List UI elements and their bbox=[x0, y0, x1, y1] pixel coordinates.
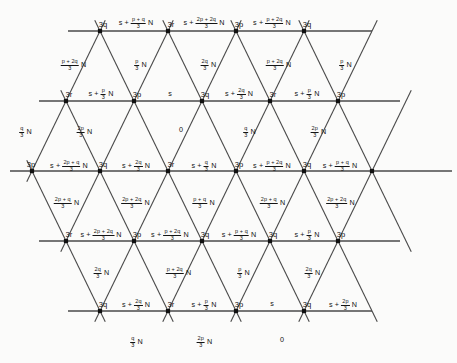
lattice-node-label: 3q bbox=[99, 161, 108, 169]
lattice-vertex bbox=[370, 169, 374, 173]
lattice-cell-expression: q3N bbox=[18, 124, 32, 138]
lattice-vertex bbox=[268, 239, 272, 243]
lattice-vertex bbox=[132, 239, 136, 243]
lattice-vertex bbox=[64, 239, 68, 243]
lattice-vertex bbox=[30, 169, 34, 173]
lattice-node-label: 3p bbox=[133, 231, 142, 239]
lattice-node-label: 3r bbox=[168, 161, 175, 169]
lattice-cell-expression: p3N bbox=[236, 265, 250, 279]
lattice-cell-expression: s bbox=[270, 300, 274, 307]
lattice-cell-expression: s +p + q3N bbox=[119, 17, 154, 29]
lattice-node-label: 3r bbox=[66, 91, 73, 99]
lattice-cell-expression: s +2p + q3N bbox=[50, 160, 88, 172]
lattice-vertex bbox=[234, 309, 238, 313]
lattice-node-label: 3p bbox=[235, 161, 244, 169]
lattice-node-label: 3q bbox=[269, 231, 278, 239]
lattice-cell-expression: s +2q3N bbox=[122, 160, 150, 172]
lattice-cell-expression: s +p + 2q3N bbox=[151, 229, 189, 241]
lattice-vertex bbox=[200, 239, 204, 243]
lattice-cell-expression: 0 bbox=[280, 336, 284, 343]
lattice-cell-expression: p + q3N bbox=[191, 195, 214, 209]
lattice-cell-expression: 2q3N bbox=[93, 265, 110, 279]
lattice-node-label: 3r bbox=[270, 91, 277, 99]
lattice-cell-expression: s +2p3N bbox=[329, 299, 357, 311]
lattice-cell-expression: s +p + q3N bbox=[323, 160, 358, 172]
lattice-cell-expression: s +2p + 2q3N bbox=[81, 229, 122, 241]
lattice-cell-expression: s +q3N bbox=[192, 160, 217, 172]
lattice-cell-expression: s +p + 2q3N bbox=[253, 17, 291, 29]
lattice-node-label: 3p bbox=[337, 91, 346, 99]
lattice-cell-expression: p3N bbox=[338, 57, 352, 71]
lattice-vertex bbox=[98, 309, 102, 313]
lattice-vertex bbox=[200, 99, 204, 103]
lattice-cell-expression: p + 2q3N bbox=[165, 265, 192, 279]
lattice-lines-svg bbox=[0, 0, 457, 363]
lattice-node-label: 3r bbox=[66, 231, 73, 239]
lattice-vertex bbox=[234, 169, 238, 173]
lattice-node-label: 3q bbox=[99, 21, 108, 29]
lattice-vertex bbox=[166, 309, 170, 313]
lattice-cell-expression: 2p3N bbox=[76, 124, 93, 138]
lattice-cell-expression: s +2p + 2q3N bbox=[184, 17, 225, 29]
lattice-cell-expression: s bbox=[168, 90, 172, 97]
lattice-cell-expression: p + 2q3N bbox=[60, 57, 87, 71]
lattice-cell-expression: s +2q3N bbox=[122, 299, 150, 311]
lattice-cell-expression: q3N bbox=[129, 334, 143, 348]
lattice-node-label: 3p bbox=[133, 91, 142, 99]
lattice-vertex bbox=[132, 99, 136, 103]
lattice-vertex bbox=[302, 309, 306, 313]
lattice-cell-expression: 2p + 2q3N bbox=[325, 195, 355, 209]
lattice-vertex bbox=[234, 29, 238, 33]
lattice-cell-expression: 0 bbox=[179, 126, 183, 133]
lattice-node-label: 3r bbox=[168, 301, 175, 309]
lattice-cell-expression: p + 2q3N bbox=[265, 57, 292, 71]
lattice-node-label: 3p bbox=[337, 231, 346, 239]
lattice-cell-expression: 2p + 2q3N bbox=[120, 195, 150, 209]
lattice-node-label: 3q bbox=[303, 161, 312, 169]
lattice-cell-expression: 2q3N bbox=[200, 57, 217, 71]
lattice-cell-expression: s +p + 2q3N bbox=[253, 160, 291, 172]
lattice-node-label: 3q bbox=[201, 231, 210, 239]
lattice-cell-expression: s +2q3N bbox=[225, 88, 253, 100]
lattice-vertex bbox=[336, 239, 340, 243]
lattice-cell-expression: 2p3N bbox=[196, 334, 213, 348]
lattice-vertex bbox=[98, 169, 102, 173]
lattice-vertex bbox=[166, 169, 170, 173]
lattice-cell-expression: s +p + q3N bbox=[222, 229, 257, 241]
lattice-cell-expression: q3N bbox=[242, 124, 256, 138]
lattice-node-label: 3q bbox=[201, 91, 210, 99]
lattice-node-label: 3p bbox=[27, 161, 36, 169]
lattice-node-label: 3p bbox=[235, 301, 244, 309]
lattice-cell-expression: 2p3N bbox=[310, 124, 327, 138]
lattice-vertex bbox=[336, 99, 340, 103]
lattice-cell-expression: 2p + q3N bbox=[259, 195, 286, 209]
lattice-node-label: 3r bbox=[168, 21, 175, 29]
lattice-cell-expression: s +p3N bbox=[295, 88, 320, 100]
lattice-node-label: 3q bbox=[99, 301, 108, 309]
lattice-node-label: 3p bbox=[235, 21, 244, 29]
lattice-vertex bbox=[268, 99, 272, 103]
lattice-cell-expression: s +p3N bbox=[192, 299, 217, 311]
lattice-vertex bbox=[302, 29, 306, 33]
lattice-vertex bbox=[64, 99, 68, 103]
lattice-node-label: 3q bbox=[303, 21, 312, 29]
lattice-vertex bbox=[166, 29, 170, 33]
lattice-cell-expression: s +p3N bbox=[295, 229, 320, 241]
lattice-node-label: 3q bbox=[303, 301, 312, 309]
lattice-cell-expression: s +p3N bbox=[89, 88, 114, 100]
lattice-cell-expression: 2p + q3N bbox=[53, 195, 80, 209]
lattice-vertex bbox=[302, 169, 306, 173]
lattice-cell-expression: p3N bbox=[133, 57, 147, 71]
lattice-vertex bbox=[98, 29, 102, 33]
lattice-diagram-figure: 3q3r3p3q3r3p3q3r3p3p3q3r3p3q3r3p3q3q3p3q… bbox=[0, 0, 457, 363]
lattice-cell-expression: 2q3N bbox=[304, 265, 321, 279]
